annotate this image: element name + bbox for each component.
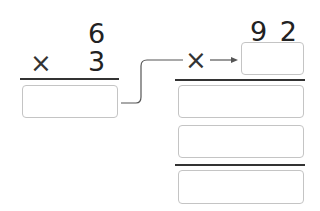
right-multiplicand: 9 2 bbox=[250, 18, 299, 45]
right-rule-top bbox=[175, 79, 305, 81]
right-rule-bottom bbox=[175, 164, 305, 166]
right-times-sign: × bbox=[185, 47, 207, 73]
partial-product-1-box[interactable] bbox=[178, 85, 304, 118]
final-answer-box[interactable] bbox=[178, 170, 304, 204]
right-multiplier-box[interactable] bbox=[241, 42, 304, 75]
partial-product-2-box[interactable] bbox=[178, 125, 304, 158]
